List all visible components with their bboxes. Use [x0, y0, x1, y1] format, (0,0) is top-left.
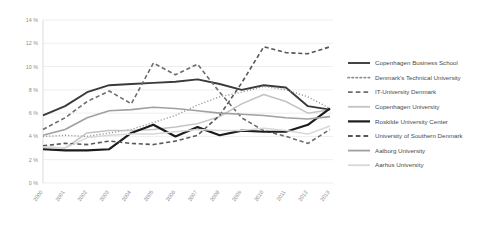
legend-item[interactable]: Copenhagen Business School	[348, 59, 458, 66]
x-axis-tick-label: 2003	[98, 189, 110, 202]
legend-item[interactable]: Denmark's Technical University	[348, 74, 462, 81]
legend-label: Copenhagen Business School	[375, 59, 458, 66]
x-axis-tick-label: 2005	[142, 189, 154, 202]
x-axis-tick-label: 2004	[120, 189, 132, 202]
x-axis-tick-label: 2011	[275, 189, 287, 202]
x-axis-tick-label: 2009	[231, 189, 243, 202]
legend-label: Denmark's Technical University	[375, 74, 462, 81]
legend-item[interactable]: University of Southern Denmark	[348, 132, 464, 139]
y-axis-tick-label: 2 %	[29, 157, 38, 163]
chart-container: 0 %2 %4 %6 %8 %10 %12 %14 % 200020012002…	[0, 0, 499, 227]
x-axis-tick-label: 2002	[76, 189, 88, 202]
x-axis-tick-label: 2007	[187, 189, 199, 202]
y-axis-tick-label: 10 %	[26, 64, 38, 70]
y-axis-tick-label: 4 %	[29, 133, 38, 139]
legend-label: IT-University Denmark	[375, 88, 437, 95]
y-axis-tick-labels: 0 %2 %4 %6 %8 %10 %12 %14 %	[26, 17, 38, 186]
y-axis-tick-label: 6 %	[29, 110, 38, 116]
y-axis-tick-label: 0 %	[29, 180, 38, 186]
legend-item[interactable]: Roskilde University Center	[348, 118, 448, 125]
legend-item[interactable]: Aarhus University	[348, 161, 424, 168]
legend-item[interactable]: Copenhagen University	[348, 103, 440, 110]
legend-item[interactable]: IT-University Denmark	[348, 88, 437, 95]
x-axis-tick-label: 2013	[319, 189, 331, 202]
legend-label: Aarhus University	[375, 161, 424, 168]
y-axis-tick-label: 12 %	[26, 40, 38, 46]
y-axis-tick-label: 14 %	[26, 17, 38, 23]
legend-label: University of Southern Denmark	[375, 132, 464, 139]
x-axis-tick-labels: 2000200120022003200420052006200720082009…	[32, 189, 331, 202]
x-axis-tick-label: 2000	[32, 189, 44, 202]
line-chart: 0 %2 %4 %6 %8 %10 %12 %14 % 200020012002…	[0, 0, 499, 227]
chart-legend: Copenhagen Business SchoolDenmark's Tech…	[348, 59, 464, 168]
series-lines	[43, 47, 330, 151]
x-axis-tick-label: 2012	[297, 189, 309, 202]
x-axis-tick-label: 2001	[54, 189, 66, 202]
y-axis-tick-label: 8 %	[29, 87, 38, 93]
x-axis-tick-label: 2010	[253, 189, 265, 202]
legend-label: Aalborg University	[375, 147, 426, 154]
x-axis-tick-label: 2006	[164, 189, 176, 202]
legend-label: Roskilde University Center	[375, 118, 448, 125]
legend-label: Copenhagen University	[375, 103, 440, 110]
x-axis-tick-label: 2008	[209, 189, 221, 202]
legend-item[interactable]: Aalborg University	[348, 147, 426, 154]
